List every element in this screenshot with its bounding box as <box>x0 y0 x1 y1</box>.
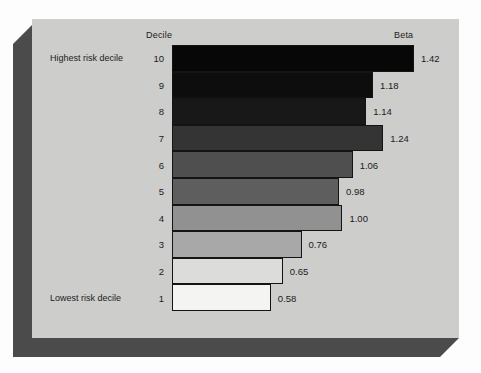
bar-row: Highest risk decile101.42 <box>32 45 459 72</box>
decile-tick-label: 8 <box>150 106 164 117</box>
decile-tick-label: 3 <box>150 239 164 250</box>
bar-decile-3 <box>172 231 302 258</box>
bar-row: 61.06 <box>32 151 459 178</box>
decile-tick-label: 5 <box>150 186 164 197</box>
bar-decile-1 <box>172 284 271 311</box>
bar-value-label: 1.06 <box>360 159 379 170</box>
decile-tick-label: 1 <box>150 292 164 303</box>
bar-decile-6 <box>172 151 353 178</box>
lowest-risk-annotation: Lowest risk decile <box>50 293 121 303</box>
bar-decile-7 <box>172 125 383 152</box>
bar-row: 50.98 <box>32 178 459 205</box>
bar-value-label: 0.76 <box>309 239 328 250</box>
bar-decile-4 <box>172 205 342 232</box>
decile-tick-label: 6 <box>150 159 164 170</box>
bar-decile-2 <box>172 258 283 285</box>
decile-tick-label: 2 <box>150 266 164 277</box>
bar-value-label: 0.58 <box>278 292 297 303</box>
bar-value-label: 1.24 <box>390 133 409 144</box>
bar-row: Lowest risk decile10.58 <box>32 284 459 311</box>
chart-figure: Decile Beta Highest risk decile101.4291.… <box>0 0 481 373</box>
bar-row: 41.00 <box>32 205 459 232</box>
shadow-bevel-bottom-right <box>440 338 459 357</box>
bar-row: 71.24 <box>32 125 459 152</box>
bar-row: 20.65 <box>32 258 459 285</box>
bar-value-label: 1.42 <box>421 53 440 64</box>
decile-tick-label: 4 <box>150 212 164 223</box>
bar-decile-9 <box>172 72 373 99</box>
column-header-beta: Beta <box>394 30 413 40</box>
bar-value-label: 1.14 <box>373 106 392 117</box>
bar-decile-8 <box>172 98 366 125</box>
bar-value-label: 1.00 <box>349 212 368 223</box>
decile-tick-label: 10 <box>150 53 164 64</box>
bar-value-label: 0.98 <box>346 186 365 197</box>
bar-row: 30.76 <box>32 231 459 258</box>
bar-plot-area: Highest risk decile101.4291.1881.1471.24… <box>32 45 459 311</box>
decile-tick-label: 7 <box>150 133 164 144</box>
bar-row: 91.18 <box>32 72 459 99</box>
bar-decile-10 <box>172 45 414 72</box>
chart-panel: Decile Beta Highest risk decile101.4291.… <box>32 19 459 338</box>
bar-value-label: 1.18 <box>380 79 399 90</box>
shadow-bevel-top-left <box>13 25 32 44</box>
highest-risk-annotation: Highest risk decile <box>50 53 123 63</box>
bar-decile-5 <box>172 178 339 205</box>
bar-value-label: 0.65 <box>290 266 309 277</box>
decile-tick-label: 9 <box>150 79 164 90</box>
bar-row: 81.14 <box>32 98 459 125</box>
column-header-decile: Decile <box>146 30 172 40</box>
